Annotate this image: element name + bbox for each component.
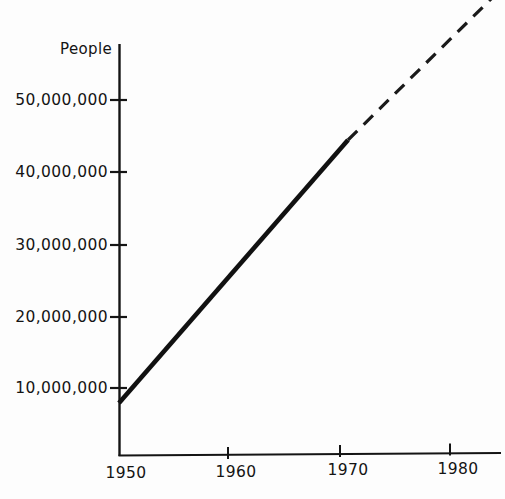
x-tick-label-1950: 1950 [105,464,146,482]
chart-figure: People 50,000,000 40,000,000 30,000,000 … [0,0,505,499]
x-tick-label-1980: 1980 [437,460,478,478]
x-axis-ticks [228,444,450,460]
y-tick-label-30m: 30,000,000 [15,236,108,254]
y-axis-title: People [60,40,110,58]
y-tick-label-20m: 20,000,000 [15,308,108,326]
x-tick-label-1960: 1960 [215,463,256,481]
y-tick-label-50m: 50,000,000 [15,91,108,109]
y-tick-label-10m: 10,000,000 [15,379,108,397]
series-line-observed [119,140,348,403]
x-axis-line [119,453,502,456]
series-line-projected [348,0,492,140]
x-tick-label-1970: 1970 [327,461,368,479]
y-tick-label-40m: 40,000,000 [15,163,108,181]
